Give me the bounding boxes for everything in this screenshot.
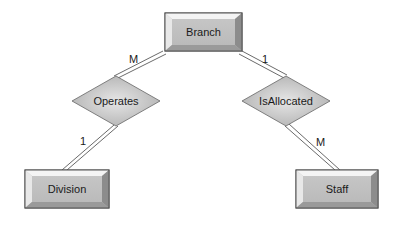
cardinality-branch-isallocated: 1 [262,53,268,65]
entity-division-label: Division [48,183,87,195]
connector-operates-division [62,125,118,170]
relationship-operates[interactable]: Operates [72,76,160,126]
cardinality-branch-operates: M [129,53,138,65]
entity-division[interactable]: Division [25,170,109,208]
entity-branch[interactable]: Branch [165,13,242,51]
entity-staff[interactable]: Staff [296,170,378,208]
relationship-isallocated[interactable]: IsAllocated [242,76,330,126]
connector-isallocated-staff [285,124,340,170]
cardinality-isallocated-staff: M [316,136,325,148]
entity-branch-label: Branch [186,26,221,38]
er-diagram: M 1 1 M Branch Division Staff Operates [0,0,399,225]
connector-branch-operates [114,51,166,78]
relationship-operates-label: Operates [93,95,139,107]
relationship-isallocated-label: IsAllocated [259,95,313,107]
cardinality-operates-division: 1 [80,135,86,147]
entity-staff-label: Staff [326,183,349,195]
